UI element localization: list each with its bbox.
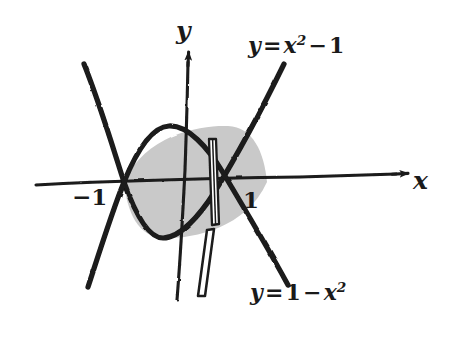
curve-lower-lhs: y (250, 279, 263, 305)
curve-lower-first: 1 (286, 279, 301, 305)
detached-strip (198, 229, 214, 296)
figure-canvas: y x −1 1 y=x2−1 y=1−x2 (0, 0, 450, 338)
curve-upper-exponent: 2 (297, 32, 306, 48)
curve-upper-rhs: 1 (329, 32, 344, 58)
curve-upper-base: x (284, 32, 297, 58)
curve-lower-equals: = (263, 279, 286, 305)
curve-lower-exponent: 2 (337, 279, 346, 295)
curve-label-upward-parabola: y=x2−1 (248, 34, 344, 56)
y-axis-arrowhead (188, 52, 189, 66)
curve-lower-base: x (324, 279, 337, 305)
y-axis-label-text: y (176, 16, 191, 45)
tick-label-one: 1 (243, 188, 259, 211)
curve-lower-operator: − (301, 279, 324, 305)
tick-label-minus-one: −1 (72, 185, 107, 208)
curve-upper-lhs: y (248, 32, 261, 58)
curve-upper-equals: = (261, 32, 284, 58)
curve-label-downward-parabola: y=1−x2 (250, 281, 346, 303)
x-axis-label-text: x (413, 166, 428, 195)
x-axis-arrowhead (392, 173, 408, 174)
parabola-figure-svg (0, 0, 450, 338)
curve-upper-operator: − (306, 32, 329, 58)
x-axis-label: x (413, 168, 428, 193)
y-axis-label: y (176, 18, 191, 43)
